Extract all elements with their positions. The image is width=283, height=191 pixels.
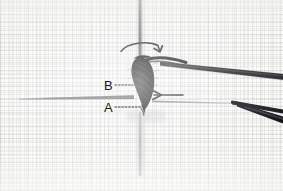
suture-technique-photograph: B A	[0, 0, 283, 191]
photograph-content	[0, 0, 283, 191]
cast-shadow	[126, 109, 166, 170]
label-b: B	[104, 79, 113, 92]
horizontal-needle-halo	[19, 95, 134, 100]
forceps-upper-arm	[160, 62, 283, 81]
label-a: A	[104, 101, 113, 114]
vertical-needle-lower-halo	[138, 112, 143, 176]
horizontal-needle-right-segment	[152, 100, 236, 104]
